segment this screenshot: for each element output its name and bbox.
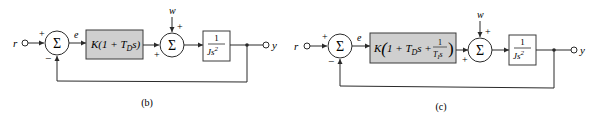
- error-label-e: e: [74, 29, 79, 40]
- output-label-y: y: [271, 39, 277, 51]
- sigma-symbol: Σ: [476, 43, 484, 58]
- sign-plus: +: [177, 21, 183, 32]
- diagram-c: r Σ + − e K(1 + TDs + 1 TIs ) + Σ w + 1 …: [294, 9, 585, 113]
- integral-numerator: 1: [438, 38, 442, 47]
- disturbance-label-w: w: [169, 5, 176, 16]
- sign-plus: +: [322, 31, 328, 42]
- sign-plus: +: [485, 26, 491, 37]
- error-label-e: e: [357, 32, 362, 43]
- diagram-caption: (c): [435, 101, 446, 113]
- block-diagrams: r Σ + − e K(1 + TDs) + Σ w + 1 Js2: [0, 0, 597, 123]
- output-terminal: [571, 47, 577, 53]
- input-label-r: r: [13, 37, 18, 49]
- disturbance-label-w: w: [477, 9, 484, 20]
- output-label-y: y: [579, 44, 585, 56]
- close-paren: ): [448, 39, 454, 58]
- sign-minus: −: [328, 55, 334, 67]
- plant-numerator: 1: [520, 37, 525, 47]
- input-terminal: [304, 43, 310, 49]
- input-terminal: [22, 40, 28, 46]
- output-terminal: [263, 42, 269, 48]
- diagram-b: r Σ + − e K(1 + TDs) + Σ w + 1 Js2: [13, 5, 277, 109]
- input-label-r: r: [294, 40, 299, 52]
- sign-plus: +: [154, 49, 160, 60]
- diagram-caption: (b): [141, 97, 153, 109]
- sigma-symbol: Σ: [336, 39, 344, 54]
- sign-plus: +: [39, 28, 45, 39]
- sigma-symbol: Σ: [168, 38, 176, 53]
- plant-numerator: 1: [214, 33, 219, 43]
- sigma-symbol: Σ: [53, 36, 61, 51]
- sign-plus: +: [462, 54, 468, 65]
- sign-minus: −: [45, 52, 51, 64]
